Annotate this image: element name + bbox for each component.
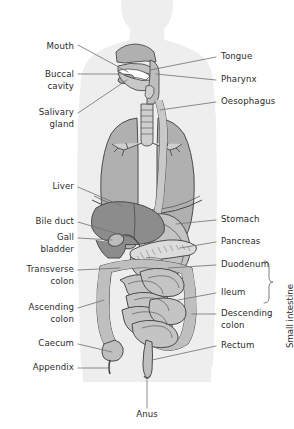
label-gall-bladder: Gallbladder	[40, 232, 74, 255]
label-descending-colon: Descendingcolon	[221, 308, 273, 331]
label-stomach: Stomach	[221, 214, 260, 226]
label-transverse-colon: Transversecolon	[27, 264, 74, 287]
label-caecum: Caecum	[38, 338, 74, 350]
label-appendix: Appendix	[33, 362, 74, 374]
label-ileum: Ileum	[221, 287, 246, 299]
label-buccal-cavity: Buccalcavity	[45, 69, 74, 92]
label-tongue: Tongue	[221, 51, 252, 63]
label-mouth: Mouth	[47, 41, 74, 53]
label-salivary-gland: Salivarygland	[39, 107, 74, 130]
label-pharynx: Pharynx	[221, 74, 257, 86]
label-ascending-colon: Ascendingcolon	[29, 302, 74, 325]
label-liver: Liver	[52, 181, 74, 193]
label-pancreas: Pancreas	[221, 236, 260, 248]
label-oesophagus: Oesophagus	[221, 96, 275, 108]
rectum-shape	[143, 340, 153, 378]
label-small-intestine: Small intestine	[285, 284, 294, 348]
label-anus: Anus	[0, 409, 294, 421]
label-duodenum: Duodenum	[221, 259, 269, 271]
label-bile-duct: Bile duct	[35, 216, 74, 228]
label-rectum: Rectum	[221, 340, 254, 352]
